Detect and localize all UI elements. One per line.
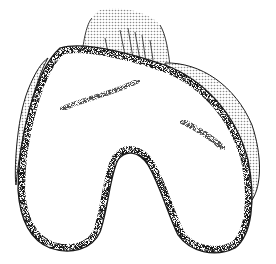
femur-illustration (0, 0, 276, 264)
condyles (18, 46, 252, 253)
illustration-canvas (0, 0, 276, 264)
